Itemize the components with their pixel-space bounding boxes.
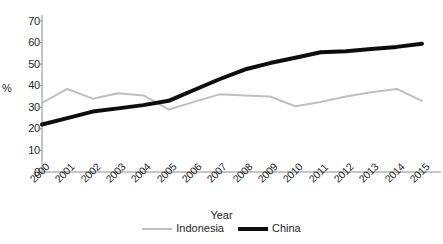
line-chart: % 010203040506070 2000200120022003200420… [0, 0, 443, 244]
plot-canvas [0, 0, 443, 180]
chart-legend: Indonesia China [0, 223, 443, 234]
legend-label-indonesia: Indonesia [176, 223, 224, 234]
legend-item-indonesia[interactable]: Indonesia [142, 223, 224, 234]
plot-area: % 010203040506070 [0, 0, 443, 180]
legend-item-china[interactable]: China [238, 223, 301, 234]
legend-swatch-indonesia [142, 228, 172, 230]
legend-swatch-china [238, 227, 268, 231]
series-line-indonesia [42, 89, 422, 109]
series-line-china [42, 44, 422, 125]
x-axis-title: Year [0, 209, 443, 221]
legend-label-china: China [272, 223, 301, 234]
